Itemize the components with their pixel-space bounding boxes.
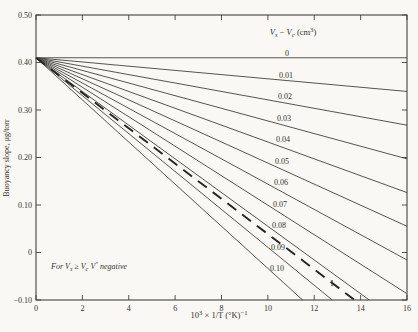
fan-line-label-0.03: 0.03	[277, 114, 291, 123]
fan-line-label-0.05: 0.05	[275, 157, 289, 166]
x-tick-label: 14	[357, 304, 365, 313]
buoyancy-slope-chart: I02468101214160.500.400.300.200.100−0.10…	[0, 0, 418, 332]
y-tick-label: −0.10	[13, 296, 32, 305]
y-tick-label: 0	[28, 248, 32, 257]
fan-line-label-0.06: 0.06	[274, 178, 288, 187]
x-tick-label: 16	[403, 304, 411, 313]
fan-line-label-0: 0	[285, 49, 289, 58]
fan-line-label-0.08: 0.08	[272, 221, 286, 230]
footnote: For Vs ≥ Vc V″ negative	[50, 260, 127, 272]
fan-line-label-0.04: 0.04	[276, 135, 290, 144]
y-tick-label: 0.30	[18, 106, 32, 115]
y-tick-label: 0.50	[18, 11, 32, 20]
y-axis-title: Buoyancy slope, μg/torr	[2, 119, 11, 197]
fan-line-label-0.01: 0.01	[279, 71, 293, 80]
x-tick-label: 12	[310, 304, 318, 313]
x-tick-label: 6	[173, 304, 177, 313]
y-tick-label: 0.10	[18, 201, 32, 210]
figure: I02468101214160.500.400.300.200.100−0.10…	[0, 0, 418, 332]
fan-line-label-0.10: 0.10	[270, 264, 284, 273]
fan-line-label-0.07: 0.07	[273, 200, 287, 209]
fan-line-label-0.02: 0.02	[278, 92, 292, 101]
x-tick-label: 4	[127, 304, 131, 313]
figure-background	[0, 0, 418, 332]
y-tick-label: 0.40	[18, 58, 32, 67]
x-tick-label: 0	[34, 304, 38, 313]
x-tick-label: 10	[264, 304, 272, 313]
dashed-line-label: I	[331, 278, 334, 288]
fan-line-label-0.09: 0.09	[271, 243, 285, 252]
y-tick-label: 0.20	[18, 153, 32, 162]
x-tick-label: 2	[80, 304, 84, 313]
